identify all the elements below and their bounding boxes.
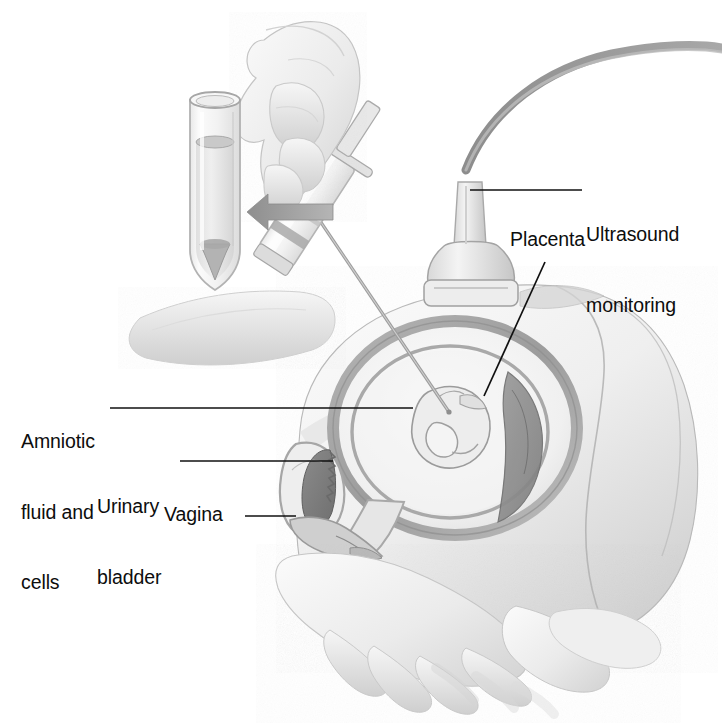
sediment-surface (200, 239, 230, 249)
label-bladder-line1: Urinary (97, 495, 161, 519)
label-ultrasound-line1: Ultrasound (586, 223, 679, 247)
fetus (412, 387, 490, 469)
transducer-neck (454, 182, 486, 246)
label-placenta: Placenta (510, 228, 585, 252)
test-tube (190, 92, 240, 290)
amniocentesis-figure: Ultrasound monitoring Placenta Amniotic … (0, 0, 722, 723)
label-bladder-line2: bladder (97, 566, 161, 590)
label-amniotic-line2: fluid and (21, 501, 95, 525)
label-ultrasound-monitoring: Ultrasound monitoring (586, 176, 679, 364)
tube-mouth (196, 96, 234, 107)
needle-tip (446, 409, 451, 414)
label-amniotic-line3: cells (21, 571, 95, 595)
label-urinary-bladder: Urinary bladder (97, 448, 161, 636)
label-vagina: Vagina (164, 503, 223, 527)
transducer-footplate (424, 280, 518, 306)
label-ultrasound-line2: monitoring (586, 294, 679, 318)
label-amniotic-line1: Amniotic (21, 430, 95, 454)
label-amniotic-fluid-and-cells: Amniotic fluid and cells (21, 383, 95, 642)
